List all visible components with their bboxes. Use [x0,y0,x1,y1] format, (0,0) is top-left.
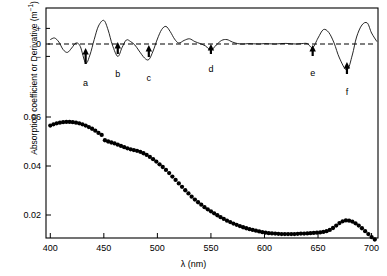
x-tick-label: 400 [43,243,58,253]
y-axis-title-suffix: ) [29,1,39,4]
spectrum-plot: 4004505005506006507000.020.040.06 +0− ab… [0,0,387,276]
arrow-label-a: a [83,78,88,88]
x-tick-label: 700 [364,243,379,253]
x-tick-label: 450 [96,243,111,253]
x-tick-label: 500 [150,243,165,253]
y-axis-title-exponent: −1 [27,4,34,11]
x-tick-label: 600 [257,243,272,253]
x-tick-label: 550 [203,243,218,253]
x-axis-title: λ (nm) [0,259,387,269]
arrow-label-c: c [147,73,152,83]
y-axis-title-text: Absorption coefficient or Derivative (m [29,11,39,154]
y-tick-label: 0.02 [23,210,41,220]
y-axis-title: Absorption coefficient or Derivative (m−… [27,0,39,173]
arrow-label-e: e [310,68,315,78]
figure-panel: 4004505005506006507000.020.040.06 +0− ab… [0,0,387,276]
arrow-label-b: b [115,69,120,79]
x-axis-title-symbol: λ [181,259,186,269]
x-axis-title-units: (nm) [188,259,207,269]
x-tick-label: 650 [311,243,326,253]
arrow-label-d: d [208,64,213,74]
